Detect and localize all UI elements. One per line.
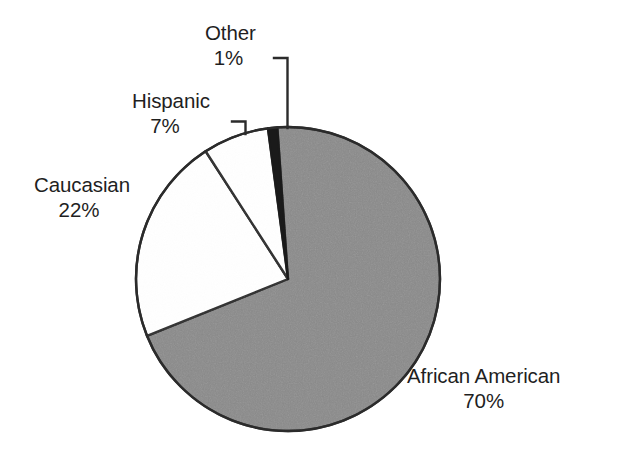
slice-label-other: Other 1% bbox=[205, 20, 256, 70]
slice-label-african-american-name: African American bbox=[407, 363, 560, 388]
slice-label-other-name: Other bbox=[205, 20, 256, 45]
slice-label-hispanic-name: Hispanic bbox=[132, 88, 210, 113]
slice-label-african-american: African American 70% bbox=[407, 363, 560, 413]
slice-label-caucasian-value: 22% bbox=[34, 197, 130, 222]
slice-label-hispanic-value: 7% bbox=[132, 113, 210, 138]
pie-chart-figure: Other 1% Hispanic 7% Caucasian 22% Afric… bbox=[0, 0, 625, 461]
slice-label-african-american-value: 70% bbox=[407, 388, 560, 413]
leader-line-other bbox=[274, 58, 288, 128]
leader-line-hispanic bbox=[232, 122, 246, 135]
slice-label-hispanic: Hispanic 7% bbox=[132, 88, 210, 138]
slice-label-caucasian: Caucasian 22% bbox=[34, 172, 130, 222]
slice-label-other-value: 1% bbox=[205, 45, 256, 70]
slice-label-caucasian-name: Caucasian bbox=[34, 172, 130, 197]
